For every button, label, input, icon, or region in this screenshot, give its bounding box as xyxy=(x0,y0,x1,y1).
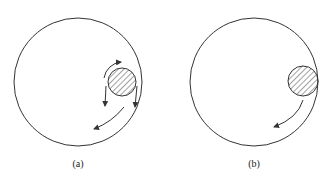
flow-arrow-lower xyxy=(94,107,124,129)
down-arrow-left xyxy=(105,86,106,106)
hatched-cylinder-b xyxy=(288,66,318,96)
flow-arrow-b xyxy=(274,100,303,127)
diagram-canvas xyxy=(0,0,336,182)
panel-b xyxy=(190,18,318,146)
figure: (a) (b) xyxy=(0,0,336,182)
panel-label-b: (b) xyxy=(239,158,269,169)
panel-label-a: (a) xyxy=(63,158,93,169)
hatched-cylinder-a xyxy=(108,68,136,96)
down-arrow-right xyxy=(135,86,137,107)
panel-a xyxy=(14,18,142,146)
